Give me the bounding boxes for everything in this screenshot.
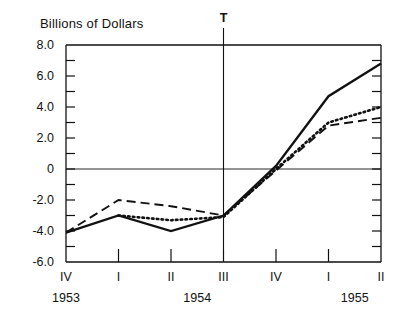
x-axis-year-label: 1954 [183,291,211,305]
x-axis-tick-label: II [168,270,175,284]
x-axis-tick-label: II [378,270,385,284]
x-axis-tick-label: III [218,270,228,284]
y-axis-tick-label: -6.0 [10,255,54,269]
y-axis-tick-label: 4.0 [10,100,54,114]
series-line-dotted [119,107,382,220]
x-axis-tick-label: IV [60,270,72,284]
x-axis-tick-label: I [327,270,330,284]
x-axis-tick-label: IV [270,270,282,284]
y-axis-tick-label: 6.0 [10,69,54,83]
y-axis-tick-label: 8.0 [10,38,54,52]
x-axis-year-label: 1955 [341,291,369,305]
chart-container: Billions of Dollars 8.06.04.02.00-2.0-4.… [0,0,416,329]
y-axis-tick-label: 2.0 [10,131,54,145]
x-axis-year-label: 1953 [52,291,80,305]
annotation-marker-t: T [220,11,228,25]
y-axis-tick-label: 0 [10,162,54,176]
y-axis-tick-label: -4.0 [10,224,54,238]
chart-title: Billions of Dollars [40,16,144,31]
y-axis-tick-label: -2.0 [10,193,54,207]
x-axis-tick-label: I [117,270,120,284]
